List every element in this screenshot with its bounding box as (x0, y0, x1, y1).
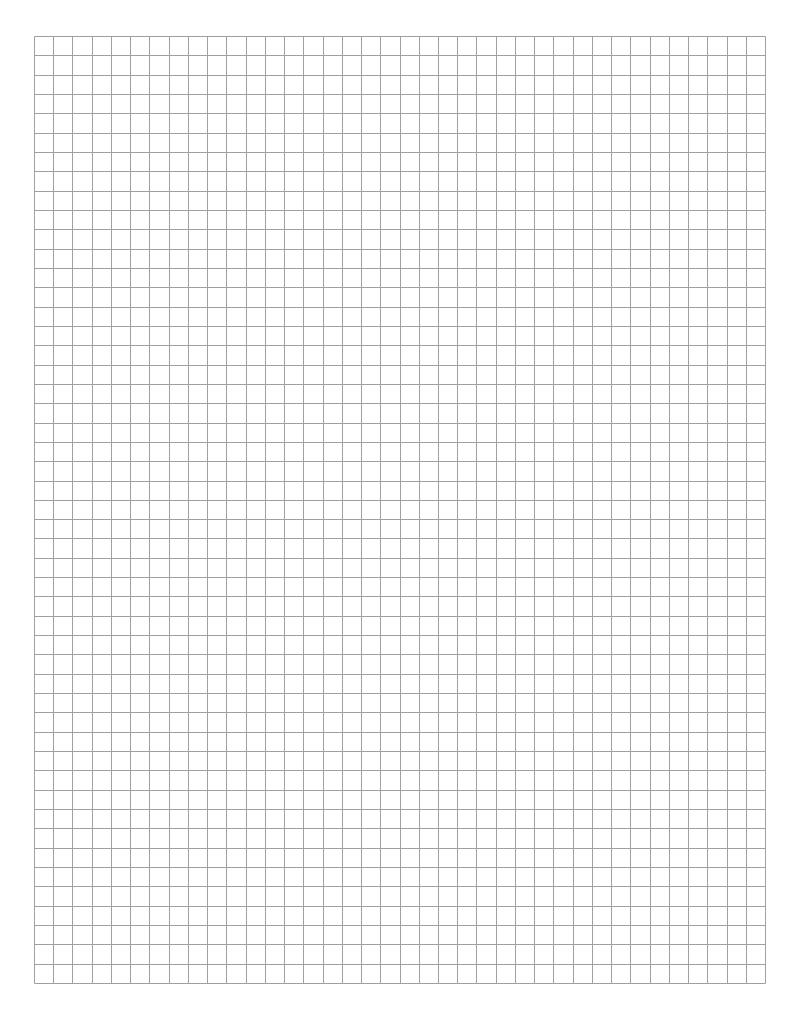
graph-paper-grid (0, 0, 792, 1025)
